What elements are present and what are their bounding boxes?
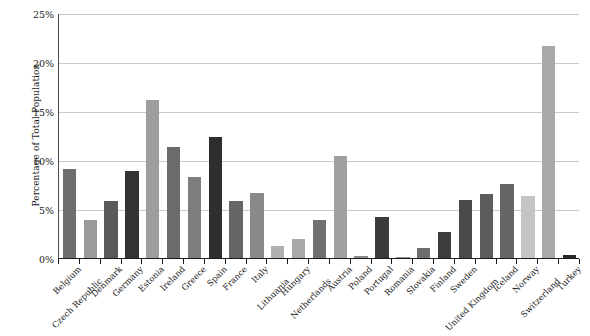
bar[interactable] (438, 232, 451, 258)
y-axis-title: Percentage of Total Population (31, 15, 41, 255)
bar[interactable] (563, 255, 576, 258)
bar-slot (267, 14, 288, 258)
bar[interactable] (354, 256, 367, 258)
bar[interactable] (480, 194, 493, 258)
bar[interactable] (500, 184, 513, 258)
bar-slot (309, 14, 330, 258)
y-tick-label: 25% (33, 9, 54, 20)
bar[interactable] (104, 201, 117, 258)
bars-layer (59, 14, 579, 258)
bar-slot (538, 14, 559, 258)
bar[interactable] (313, 220, 326, 258)
bar[interactable] (292, 239, 305, 258)
bar[interactable] (188, 177, 201, 258)
bar-slot (413, 14, 434, 258)
y-tick-label: 0% (39, 254, 54, 265)
bar-slot (455, 14, 476, 258)
bar-slot (247, 14, 268, 258)
x-axis-label: Belgium (51, 264, 83, 296)
bar-slot (163, 14, 184, 258)
bar-slot (226, 14, 247, 258)
bar[interactable] (63, 169, 76, 258)
bar[interactable] (250, 193, 263, 258)
bar[interactable] (84, 220, 97, 258)
bar[interactable] (396, 257, 409, 258)
bar-chart: Percentage of Total Population 0%5%10%15… (0, 0, 590, 336)
bar-slot (142, 14, 163, 258)
x-tick (579, 259, 580, 264)
bar-slot (330, 14, 351, 258)
bar-slot (101, 14, 122, 258)
bar[interactable] (229, 201, 242, 258)
bar[interactable] (146, 100, 159, 258)
bar-slot (59, 14, 80, 258)
bar[interactable] (521, 196, 534, 258)
bar[interactable] (125, 171, 138, 258)
y-tick-label: 5% (39, 205, 54, 216)
bar[interactable] (271, 246, 284, 258)
bar-slot (392, 14, 413, 258)
bar[interactable] (459, 200, 472, 258)
x-axis-label: Italy (250, 264, 271, 285)
bar-slot (80, 14, 101, 258)
bar[interactable] (167, 147, 180, 258)
bar[interactable] (417, 248, 430, 258)
bar-slot (184, 14, 205, 258)
bar-slot (372, 14, 393, 258)
x-axis-labels: BelgiumCzech RepublicDenmarkGermanyEston… (58, 264, 579, 336)
bar-slot (559, 14, 580, 258)
bar-slot (517, 14, 538, 258)
bar-slot (205, 14, 226, 258)
bar-slot (476, 14, 497, 258)
y-tick-label: 15% (33, 107, 54, 118)
y-tick-label: 10% (33, 156, 54, 167)
bar-slot (122, 14, 143, 258)
x-axis-label: Turkey (555, 264, 583, 292)
bar-slot (497, 14, 518, 258)
bar-slot (434, 14, 455, 258)
bar-slot (288, 14, 309, 258)
bar[interactable] (375, 217, 388, 258)
bar[interactable] (334, 156, 347, 258)
plot-area: 0%5%10%15%20%25% (58, 14, 579, 259)
y-tick-label: 20% (33, 58, 54, 69)
bar[interactable] (209, 137, 222, 258)
bar-slot (351, 14, 372, 258)
bar[interactable] (542, 46, 555, 258)
